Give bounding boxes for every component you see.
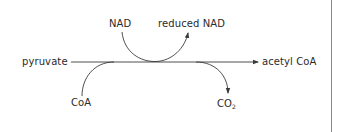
co2-label-main: CO (217, 98, 232, 109)
acetyl-coa-label: acetyl CoA (262, 56, 317, 68)
reaction-diagram: pyruvate acetyl CoA NAD reduced NAD CoA … (0, 0, 345, 132)
reduced-nad-label: reduced NAD (158, 18, 225, 30)
coa-input-curve (82, 62, 114, 96)
coa-label: CoA (71, 97, 91, 109)
nad-label: NAD (109, 18, 131, 30)
co2-label: CO2 (217, 98, 236, 113)
co2-output-curve (196, 62, 228, 93)
co2-label-subscript: 2 (232, 103, 236, 110)
nad-reduction-arc (122, 32, 188, 62)
pyruvate-label: pyruvate (22, 56, 68, 68)
page-border-line (331, 0, 332, 132)
